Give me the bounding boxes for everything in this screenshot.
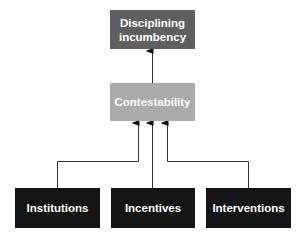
node-label: Institutions [27, 201, 89, 215]
node-interventions: Interventions [206, 188, 291, 228]
arrow-institutions-to-contestability [58, 123, 139, 188]
node-label-line2: incumbency [119, 30, 186, 44]
node-label: Interventions [212, 201, 284, 215]
node-label: Incentives [125, 201, 181, 215]
node-label-line1: Disciplining [119, 16, 186, 30]
node-label: Contestability [114, 95, 190, 109]
arrow-interventions-to-contestability [168, 123, 249, 188]
node-institutions: Institutions [15, 188, 100, 228]
node-contestability: Contestability [110, 83, 195, 121]
node-incentives: Incentives [111, 188, 195, 228]
node-disciplining-incumbency: Disciplining incumbency [110, 10, 195, 49]
